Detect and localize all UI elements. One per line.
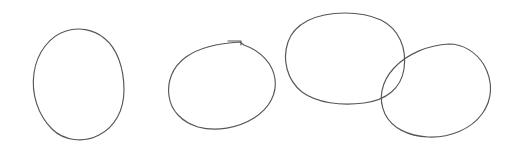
background-rect: [0, 0, 505, 153]
sketch-canvas: Four hand-drawn ovals A freehand line dr…: [0, 0, 505, 153]
sketch-svg: Four hand-drawn ovals A freehand line dr…: [0, 0, 505, 153]
